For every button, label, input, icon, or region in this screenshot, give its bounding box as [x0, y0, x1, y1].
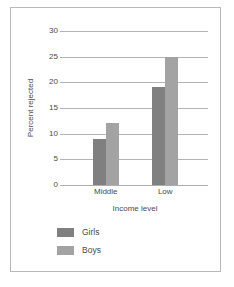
- legend-item: Girls: [57, 223, 101, 241]
- gridline: [63, 82, 208, 83]
- legend-item: Boys: [57, 241, 101, 259]
- chart-frame: Percent rejected 051015202530MiddleLow I…: [10, 7, 221, 272]
- legend-label: Boys: [82, 245, 101, 255]
- legend-swatch: [57, 246, 74, 255]
- gridline: [63, 159, 208, 160]
- bar-girls-low: [152, 87, 165, 185]
- gridline: [63, 57, 208, 58]
- y-axis-tick-mark: [60, 185, 63, 186]
- y-axis-tick-mark: [60, 108, 63, 109]
- gridline: [63, 31, 208, 32]
- y-axis-tick-mark: [60, 134, 63, 135]
- y-axis-tick-label: 10: [49, 130, 58, 138]
- y-axis-tick-mark: [60, 31, 63, 32]
- gridline: [63, 134, 208, 135]
- y-axis-tick-label: 5: [54, 155, 58, 163]
- y-axis-tick-label: 0: [54, 181, 58, 189]
- y-axis-tick-label: 25: [49, 53, 58, 61]
- x-axis-title: Income level: [113, 204, 158, 213]
- y-axis-tick-mark: [60, 159, 63, 160]
- legend-swatch: [57, 228, 74, 237]
- y-axis-tick-mark: [60, 57, 63, 58]
- y-axis-tick-label: 30: [49, 27, 58, 35]
- x-axis-tick-label: Low: [158, 187, 173, 196]
- plot-area: 051015202530MiddleLow: [63, 31, 208, 185]
- x-axis-line: [63, 185, 208, 186]
- x-axis-tick-label: Middle: [94, 187, 118, 196]
- y-axis-tick-label: 15: [49, 104, 58, 112]
- bar-boys-middle: [106, 123, 119, 185]
- y-axis-title: Percent rejected: [26, 79, 35, 137]
- chart-legend: GirlsBoys: [57, 223, 101, 259]
- y-axis-tick-label: 20: [49, 78, 58, 86]
- y-axis-tick-mark: [60, 82, 63, 83]
- bar-boys-low: [165, 57, 178, 185]
- bar-girls-middle: [93, 139, 106, 185]
- legend-label: Girls: [82, 227, 99, 237]
- gridline: [63, 108, 208, 109]
